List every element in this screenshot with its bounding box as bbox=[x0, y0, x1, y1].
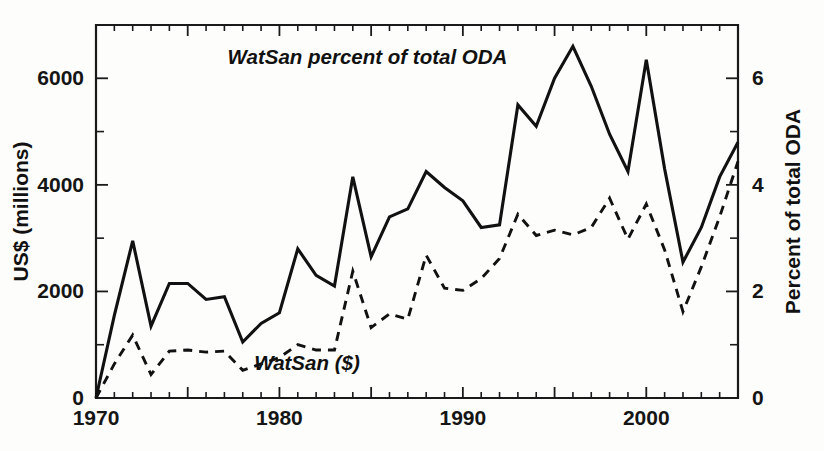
x-tick-label-2000: 2000 bbox=[623, 406, 670, 429]
y-right-tick-label-6: 6 bbox=[752, 66, 764, 89]
x-tick-label-1980: 1980 bbox=[256, 406, 303, 429]
y-left-tick-label-2000: 2000 bbox=[37, 279, 84, 302]
annotation-watsan-dollars-label: WatSan ($) bbox=[254, 351, 360, 374]
annotation-watsan-percent-label: WatSan percent of total ODA bbox=[228, 45, 508, 68]
y-right-tick-label-4: 4 bbox=[752, 173, 764, 196]
x-tick-label-1990: 1990 bbox=[439, 406, 486, 429]
x-axis-tick-labels: 1970198019902000 bbox=[73, 406, 670, 429]
y-axis-left-tick-labels: 0200040006000 bbox=[37, 66, 84, 409]
figure-container: 1970198019902000 0200040006000 0246 US$ … bbox=[0, 0, 824, 451]
y-left-tick-label-4000: 4000 bbox=[37, 173, 84, 196]
y-axis-right-title: Percent of total ODA bbox=[781, 109, 804, 314]
x-tick-label-1970: 1970 bbox=[73, 406, 120, 429]
line-chart: 1970198019902000 0200040006000 0246 US$ … bbox=[0, 0, 824, 451]
top-axis-ticks bbox=[96, 25, 738, 36]
y-axis-right-tick-labels: 0246 bbox=[752, 66, 764, 409]
y-axis-right-ticks bbox=[726, 78, 738, 398]
y-right-tick-label-2: 2 bbox=[752, 279, 764, 302]
y-axis-left-title: US$ (millions) bbox=[9, 141, 32, 281]
y-left-tick-label-0: 0 bbox=[72, 386, 84, 409]
series-watsan-percent-of-oda bbox=[96, 46, 738, 398]
y-right-tick-label-0: 0 bbox=[752, 386, 764, 409]
x-axis-ticks bbox=[96, 387, 738, 398]
series-watsan-dollars bbox=[96, 161, 738, 398]
y-left-tick-label-6000: 6000 bbox=[37, 66, 84, 89]
